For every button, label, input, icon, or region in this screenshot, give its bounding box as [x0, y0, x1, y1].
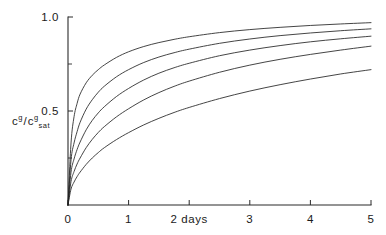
curve-3 — [68, 36, 371, 205]
x-tick-label: 5 — [368, 213, 375, 225]
figure-container: 012 days345 0.51.0 cg/cgsat — [0, 0, 386, 235]
curve-1 — [68, 23, 371, 205]
x-axis-tick-labels: 012 days345 — [65, 213, 375, 225]
data-curves-group — [68, 23, 371, 205]
y-axis-title: cg/cgsat — [12, 116, 72, 128]
y-tick-label: 1.0 — [41, 11, 59, 23]
x-tick-label: 4 — [307, 213, 314, 225]
x-tick-label: 0 — [65, 213, 72, 225]
axes-group — [68, 17, 371, 205]
curve-4 — [68, 46, 371, 205]
curve-5 — [68, 70, 371, 205]
x-tick-label: 2 days — [170, 213, 207, 225]
y-axis-title-denominator-sub: sat — [39, 121, 51, 130]
x-axis-ticks — [68, 200, 371, 205]
curve-2 — [68, 29, 371, 205]
y-axis-ticks — [68, 17, 73, 158]
x-tick-label: 3 — [246, 213, 253, 225]
y-axis-tick-labels: 0.51.0 — [41, 11, 59, 117]
x-tick-label: 1 — [125, 213, 132, 225]
